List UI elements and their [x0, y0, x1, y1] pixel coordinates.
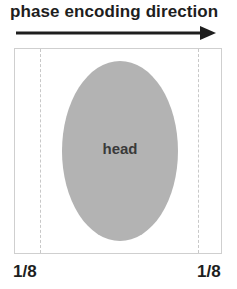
left-dashed-line [40, 49, 41, 253]
right-arrow-icon [16, 25, 216, 41]
head-label: head [62, 140, 178, 157]
diagram-title: phase encoding direction [0, 2, 237, 22]
right-fraction-label: 1/8 [197, 262, 221, 282]
right-dashed-line [198, 49, 199, 253]
left-fraction-label: 1/8 [13, 262, 37, 282]
